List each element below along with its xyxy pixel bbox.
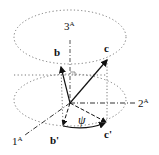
vector-c — [70, 60, 107, 103]
axis-1A-label: 1A — [12, 135, 23, 147]
label-b: b — [54, 46, 60, 58]
label-c: c — [104, 42, 109, 54]
vector-c-prime — [70, 103, 106, 122]
b-projection-line — [61, 68, 63, 124]
axis-3A-label: 3A — [64, 20, 75, 32]
axis-2A-label: 2A — [138, 97, 149, 109]
label-psi: ψ — [78, 113, 86, 127]
label-b-prime: b' — [50, 134, 59, 146]
label-c-prime: c' — [104, 128, 112, 140]
vector-projection-diagram: 3A 2A 1A b c b' c' ψ — [0, 0, 159, 155]
vector-b-prime — [63, 103, 70, 125]
